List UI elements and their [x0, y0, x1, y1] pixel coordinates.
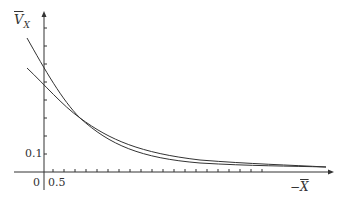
- curve-steep: [27, 38, 326, 167]
- origin-label: 0: [33, 176, 40, 189]
- x-axis-arrow-icon: [328, 170, 334, 175]
- curve-shallow: [27, 68, 326, 167]
- x-axis-label: −X: [290, 180, 309, 194]
- y-tick-label: 0.1: [25, 147, 43, 160]
- y-axis-arrow-icon: [42, 11, 47, 17]
- plot-area: [0, 0, 344, 199]
- chart: VX −X 0 0.5 0.1: [0, 0, 344, 199]
- x-tick-label: 0.5: [48, 176, 66, 189]
- y-axis-label: VX: [14, 12, 30, 30]
